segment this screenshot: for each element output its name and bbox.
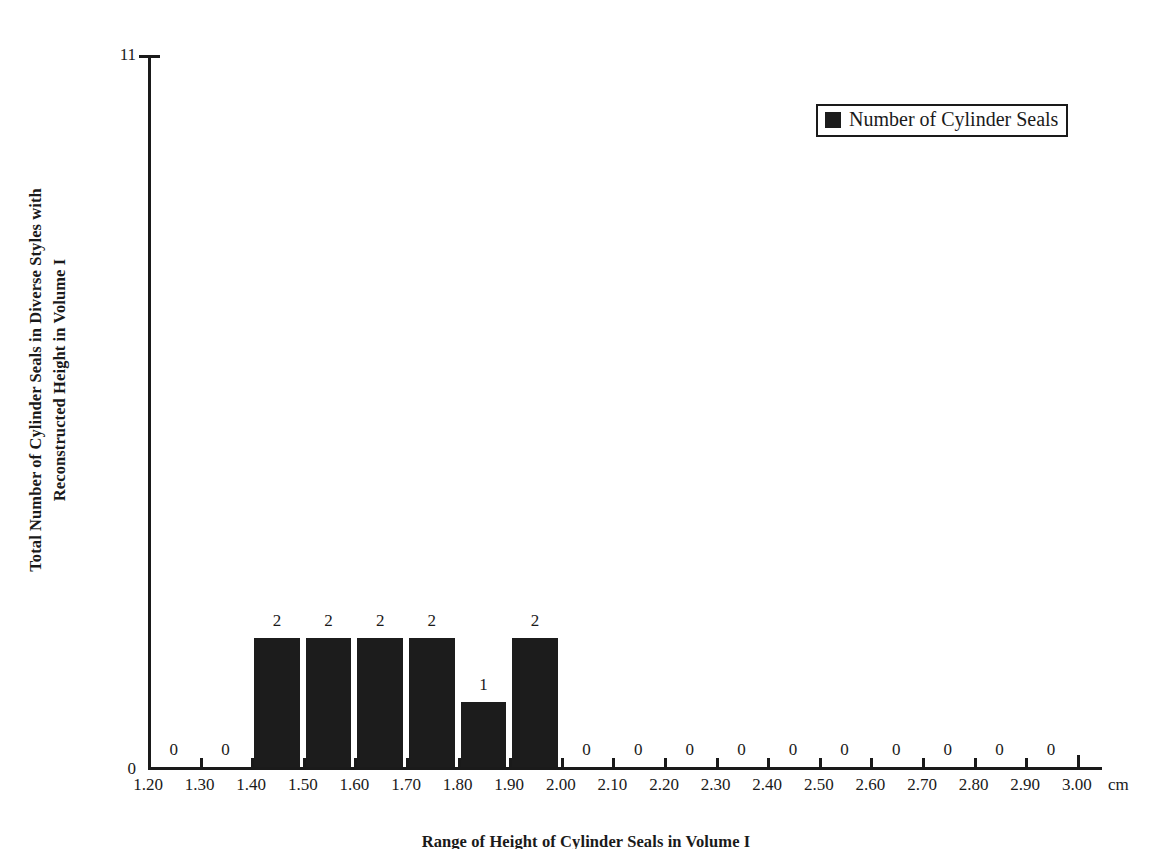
x-axis-tick-label: 1.80 — [430, 776, 486, 793]
bar-value-label: 0 — [1025, 741, 1077, 758]
x-axis-tick-label: 2.30 — [688, 776, 744, 793]
x-axis-tick — [561, 758, 564, 770]
y-axis-min-label: 0 — [88, 760, 136, 777]
x-axis-tick — [974, 758, 977, 770]
x-axis-tick — [664, 758, 667, 770]
x-axis-tick-label: 1.70 — [378, 776, 434, 793]
x-axis-tick-label: 2.50 — [791, 776, 847, 793]
x-axis-tick — [819, 758, 822, 770]
x-axis-tick — [200, 758, 203, 770]
bar-value-label: 0 — [200, 741, 252, 758]
x-axis-tick — [1077, 755, 1080, 770]
x-axis-tick-label: 2.00 — [533, 776, 589, 793]
x-axis-tick-label: 2.40 — [739, 776, 795, 793]
bar-value-label: 0 — [767, 741, 819, 758]
x-axis-title: Range of Height of Cylinder Seals in Vol… — [0, 832, 1172, 849]
x-axis-tick — [922, 758, 925, 770]
bar-value-label: 0 — [664, 741, 716, 758]
bar — [409, 638, 455, 767]
x-axis-tick — [1025, 758, 1028, 770]
x-axis-tick-label: 1.30 — [172, 776, 228, 793]
bar-value-label: 2 — [251, 612, 303, 629]
bar-value-label: 0 — [819, 741, 871, 758]
bar-value-label: 0 — [148, 741, 200, 758]
y-axis-title-line-1: Total Number of Cylinder Seals in Divers… — [24, 188, 48, 572]
bar — [306, 638, 352, 767]
bar-value-label: 2 — [509, 612, 561, 629]
bar — [461, 702, 507, 767]
bar-value-label: 2 — [354, 612, 406, 629]
x-axis-tick-label: 2.90 — [997, 776, 1053, 793]
y-axis-top-tick — [139, 55, 160, 58]
x-axis-tick-label: 1.90 — [481, 776, 537, 793]
y-axis-title-line-2: Reconstructed Height in Volume I — [48, 188, 72, 572]
x-axis-tick — [716, 758, 719, 770]
bar-value-label: 0 — [974, 741, 1026, 758]
bar-value-label: 0 — [561, 741, 613, 758]
x-axis-tick — [612, 758, 615, 770]
legend-label: Number of Cylinder Seals — [849, 109, 1058, 130]
x-axis-tick-label: 3.00 — [1049, 776, 1105, 793]
chart-page: Total Number of Cylinder Seals in Divers… — [0, 0, 1172, 849]
legend[interactable]: Number of Cylinder Seals — [816, 104, 1068, 137]
bar-value-label: 0 — [716, 741, 768, 758]
bar-value-label: 1 — [458, 676, 510, 693]
bar-value-label: 0 — [870, 741, 922, 758]
bar — [254, 638, 300, 767]
x-axis-tick — [148, 758, 151, 770]
x-axis-line — [148, 767, 1102, 770]
y-axis-line — [148, 55, 151, 770]
x-axis-tick-label: 2.80 — [946, 776, 1002, 793]
x-axis-tick-label: 1.20 — [120, 776, 176, 793]
bar-value-label: 0 — [612, 741, 664, 758]
x-axis-tick-label: 1.60 — [326, 776, 382, 793]
x-axis-tick-label: 2.60 — [842, 776, 898, 793]
x-axis-tick — [767, 758, 770, 770]
bar — [357, 638, 403, 767]
filled-square-icon — [825, 112, 841, 128]
x-axis-tick-label: 2.10 — [584, 776, 640, 793]
x-axis-tick-label: 1.40 — [223, 776, 279, 793]
x-axis-tick — [870, 758, 873, 770]
x-axis-tick-label: 2.20 — [636, 776, 692, 793]
bar-value-label: 2 — [406, 612, 458, 629]
bar-value-label: 0 — [922, 741, 974, 758]
plot-area: 002222120000000000 — [148, 55, 1102, 770]
y-axis-max-label: 11 — [88, 46, 136, 63]
bar — [512, 638, 558, 767]
y-axis-title: Total Number of Cylinder Seals in Divers… — [0, 0, 95, 760]
x-axis-unit-label: cm — [1108, 776, 1129, 793]
bar-value-label: 2 — [303, 612, 355, 629]
x-axis-tick-label: 1.50 — [275, 776, 331, 793]
x-axis-tick-label: 2.70 — [894, 776, 950, 793]
